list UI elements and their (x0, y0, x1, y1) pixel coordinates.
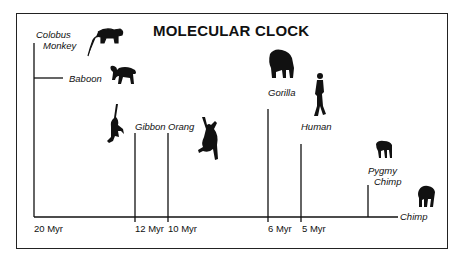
label-gorilla: Gorilla (268, 87, 295, 98)
label-colobus: Colobus Monkey (36, 29, 76, 51)
pygmy-chimp-icon (374, 140, 394, 162)
orangutan-icon (197, 115, 223, 165)
tick-20myr: 20 Myr (34, 223, 63, 234)
tick-10myr: 10 Myr (168, 223, 197, 234)
colobus-monkey-icon (82, 26, 126, 60)
tick-5myr: 5 Myr (302, 223, 326, 234)
label-human: Human (301, 121, 332, 132)
label-chimp: Chimp (400, 211, 427, 222)
label-pygmy-chimp: Pygmy Chimp (368, 165, 401, 187)
tick-6myr: 6 Myr (268, 223, 292, 234)
chimpanzee-icon (416, 185, 438, 211)
human-icon (311, 72, 329, 118)
baboon-icon (107, 64, 139, 88)
label-gibbon: Gibbon (135, 121, 166, 132)
gibbon-icon (103, 103, 127, 149)
gorilla-icon (266, 48, 298, 84)
tick-12myr: 12 Myr (135, 223, 164, 234)
label-baboon: Baboon (69, 73, 102, 84)
label-orang: Orang (168, 121, 194, 132)
